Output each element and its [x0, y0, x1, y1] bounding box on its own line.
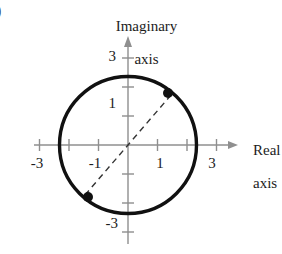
figure-tag: ) — [0, 2, 1, 19]
x-tick-label-neg3: -3 — [23, 155, 51, 171]
real-axis-group — [34, 139, 238, 151]
real-axis-title-line1: Real — [253, 142, 281, 158]
point-upper-right — [163, 88, 173, 98]
complex-plane-figure: ) Imaginary axis Real axis -3 -1 1 3 3 1… — [0, 0, 282, 254]
real-axis-title-line2: axis — [253, 175, 277, 191]
y-tick-label-pos1: 1 — [96, 95, 116, 111]
point-lower-left — [83, 192, 93, 202]
imaginary-axis-title-line2: axis — [134, 51, 158, 67]
y-tick-label-neg3: -3 — [92, 215, 118, 231]
y-tick-label-pos3: 3 — [96, 48, 116, 64]
real-axis-arrowhead — [228, 141, 238, 149]
imaginary-axis-title-line1: Imaginary — [116, 18, 178, 34]
x-tick-label-neg1: -1 — [81, 155, 109, 171]
x-tick-label-pos3: 3 — [200, 155, 224, 171]
imaginary-axis-title: Imaginary axis — [84, 2, 194, 83]
real-axis-title: Real axis — [238, 126, 282, 207]
x-tick-label-pos1: 1 — [148, 155, 172, 171]
